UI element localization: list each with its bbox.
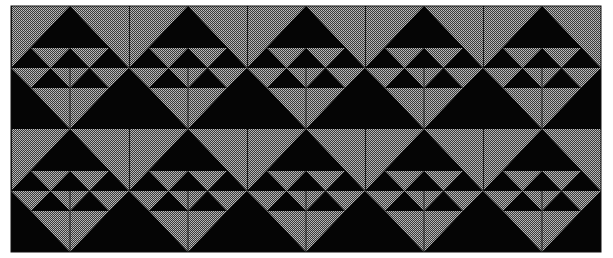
tile-r1-c1 [11,6,129,129]
tile-r2-c5 [483,129,601,252]
triangle-pattern-artwork [0,0,613,258]
tile-r2-c2 [129,129,247,252]
tile-r2-c1 [11,129,129,252]
tile-r2-c3 [247,129,365,252]
tile-r1-c3 [247,6,365,129]
tile-r2-c4 [365,129,483,252]
tile-r1-c2 [129,6,247,129]
pattern-grid [11,6,601,252]
tile-r1-c5 [483,6,601,129]
tile-r1-c4 [365,6,483,129]
